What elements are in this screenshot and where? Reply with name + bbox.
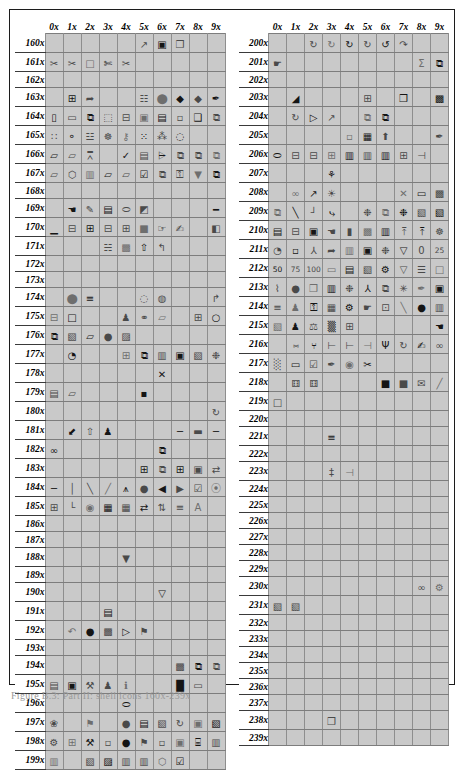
icon-cell-1981[interactable]: ⊞ [63,732,81,751]
icon-cell-2144[interactable]: ⚙ [341,297,359,316]
icon-cell-1661[interactable]: ▱ [63,145,81,164]
icon-cell-2106[interactable]: ▥ [377,221,395,240]
icon-cell-2068[interactable]: ⊣ [413,145,431,164]
icon-cell-2167[interactable]: ↻ [395,335,413,354]
icon-cell-2143[interactable]: ▦ [323,297,341,316]
icon-cell-1709[interactable]: ◧ [207,218,225,237]
icon-cell-2124[interactable]: ▤ [341,259,359,278]
icon-cell-1703[interactable]: ⊟ [99,218,117,237]
icon-cell-1662[interactable]: ⩞ [81,145,99,164]
icon-cell-1995[interactable]: ▥ [135,751,153,770]
icon-cell-2187[interactable]: ■ [395,373,413,392]
icon-cell-1790[interactable]: ▤ [45,383,63,402]
icon-cell-2131[interactable]: ● [287,278,305,297]
icon-cell-2173[interactable]: ✒ [323,354,341,373]
icon-cell-2188[interactable]: ✉ [413,373,431,392]
icon-cell-1635[interactable]: ☷ [135,88,153,107]
icon-cell-2154[interactable]: ⊞ [341,316,359,335]
icon-cell-1694[interactable]: ⬭ [117,199,135,218]
icon-cell-1982[interactable]: ⚒ [81,732,99,751]
icon-cell-1989[interactable]: ▥ [207,732,225,751]
icon-cell-1779[interactable]: ❉ [207,345,225,364]
icon-cell-2129[interactable]: □ [431,259,449,278]
icon-cell-1983[interactable]: ▫ [99,732,117,751]
icon-cell-1858[interactable]: A [189,497,207,516]
icon-cell-1813[interactable]: ♟ [99,421,117,440]
icon-cell-2041[interactable]: ↻ [287,107,305,126]
icon-cell-1979[interactable]: ▧ [207,713,225,732]
icon-cell-2130[interactable]: ⌇ [269,278,287,297]
icon-cell-2098[interactable]: ▧ [413,202,431,221]
icon-cell-1670[interactable]: ▱ [45,164,63,183]
icon-cell-1820[interactable]: ∞ [45,440,63,459]
icon-cell-1672[interactable]: ▥ [81,164,99,183]
icon-cell-1847[interactable]: ▶ [171,478,189,497]
icon-cell-1704[interactable]: ⊞ [117,218,135,237]
icon-cell-1640[interactable]: ▯ [45,107,63,126]
icon-cell-1855[interactable]: ⇄ [135,497,153,516]
icon-cell-1997[interactable]: ☑ [171,751,189,770]
icon-cell-2150[interactable]: ▧ [269,316,287,335]
icon-cell-1636[interactable]: ⬤ [153,88,171,107]
icon-cell-2308[interactable]: ∞ [413,577,431,596]
icon-cell-2171[interactable]: ▭ [287,354,305,373]
icon-cell-1645[interactable]: ▣ [135,107,153,126]
icon-cell-2063[interactable]: ⊞ [323,145,341,164]
icon-cell-2136[interactable]: ⧉ [377,278,395,297]
icon-cell-2092[interactable]: ┘ [305,202,323,221]
icon-cell-1762[interactable]: ▱ [81,326,99,345]
icon-cell-2383[interactable]: ❐ [323,711,341,730]
icon-cell-1642[interactable]: ⧉ [81,107,99,126]
icon-cell-1613[interactable]: ✄ [99,53,117,72]
icon-cell-1660[interactable]: ▱ [45,145,63,164]
icon-cell-1852[interactable]: ◉ [81,497,99,516]
icon-cell-1850[interactable]: ⊞ [45,497,63,516]
icon-cell-2035[interactable]: ⊞ [359,88,377,107]
icon-cell-2161[interactable]: ⑅ [287,335,305,354]
icon-cell-2121[interactable]: 75 [287,259,305,278]
icon-cell-1749[interactable]: ↱ [207,288,225,307]
icon-cell-1674[interactable]: ▱ [117,164,135,183]
icon-cell-1776[interactable]: ▥ [153,345,171,364]
icon-cell-1657[interactable]: ◌ [171,126,189,145]
icon-cell-1677[interactable]: ⚿ [171,164,189,183]
icon-cell-2046[interactable]: ⧉ [377,107,395,126]
icon-cell-1692[interactable]: ✎ [81,199,99,218]
icon-cell-2153[interactable]: ▒ [323,316,341,335]
icon-cell-1755[interactable]: ⚭ [135,307,153,326]
icon-cell-2087[interactable]: ✕ [395,183,413,202]
icon-cell-2005[interactable]: ↻ [359,34,377,53]
icon-cell-1987[interactable]: ▣ [171,732,189,751]
icon-cell-1836[interactable]: ⧉ [153,459,171,478]
icon-cell-1716[interactable]: ↰ [153,237,171,256]
icon-cell-1884[interactable]: ▼ [117,548,135,567]
icon-cell-1775[interactable]: ⧉ [135,345,153,364]
icon-cell-1826[interactable]: ⧉ [153,440,171,459]
icon-cell-2107[interactable]: ⤒ [395,221,413,240]
icon-cell-1923[interactable]: ▩ [99,621,117,640]
icon-cell-1644[interactable]: ⊟ [117,107,135,126]
icon-cell-1786[interactable]: ✕ [153,364,171,383]
icon-cell-1741[interactable]: ⬤ [63,288,81,307]
icon-cell-1612[interactable]: □ [81,53,99,72]
icon-cell-1654[interactable]: ⚷ [117,126,135,145]
icon-cell-1976[interactable]: ▧ [153,713,171,732]
icon-cell-2093[interactable]: ⤷ [323,202,341,221]
icon-cell-1843[interactable]: ╱ [99,478,117,497]
icon-cell-1756[interactable]: ▱ [153,307,171,326]
icon-cell-2111[interactable]: ▫ [287,240,305,259]
icon-cell-1840[interactable]: ─ [45,478,63,497]
icon-cell-1745[interactable]: ◌ [135,288,153,307]
icon-cell-1754[interactable]: ♟ [117,307,135,326]
icon-cell-2039[interactable]: ▩ [431,88,449,107]
icon-cell-1751[interactable]: □ [63,307,81,326]
icon-cell-2170[interactable]: ░ [269,354,287,373]
icon-cell-2190[interactable]: □ [269,392,287,411]
icon-cell-1838[interactable]: ▣ [189,459,207,478]
icon-cell-1986[interactable]: ▫ [153,732,171,751]
icon-cell-2002[interactable]: ↻ [305,34,323,53]
icon-cell-1705[interactable]: ■ [135,218,153,237]
icon-cell-1760[interactable]: ⧉ [45,326,63,345]
icon-cell-2120[interactable]: 50 [269,259,287,278]
icon-cell-1970[interactable]: ❀ [45,713,63,732]
